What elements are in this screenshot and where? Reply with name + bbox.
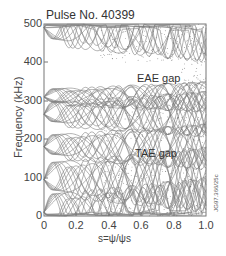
continuum-curves xyxy=(44,24,206,216)
chart-figure: Pulse No. 40399 Frequency (kHz) s=ψ/ψs 5… xyxy=(0,0,226,256)
plot-area xyxy=(0,0,226,256)
eae-gap-label: EAE gap xyxy=(137,72,180,84)
tae-gap-label: TAE gap xyxy=(135,147,177,159)
document-id: JG97.366/25c xyxy=(213,173,219,213)
